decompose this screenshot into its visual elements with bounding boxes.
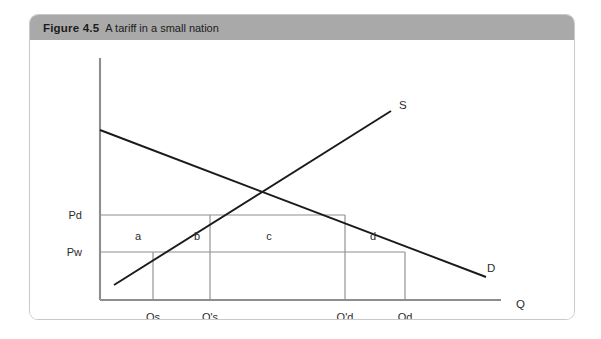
figure-number: Figure 4.5 [43,22,99,34]
welfare-region-c: c [266,230,272,242]
figure-caption: A tariff in a small nation [105,22,219,34]
supply-curve [114,111,391,285]
welfare-region-a: a [135,230,142,242]
figure-card: Figure 4.5 A tariff in a small nation S … [29,14,575,320]
price-label-pw: Pw [67,246,82,258]
demand-curve-label: D [487,262,495,274]
supply-curve-label: S [399,99,407,111]
quantity-label-qpd: Q'd [337,311,354,320]
quantity-label-qps: Q's [202,311,219,320]
quantity-label-qs: Qs [146,311,161,320]
chart-area: S D Q Pd Pw Qs Q's Q'd Qd a b c d [30,40,574,320]
welfare-region-b: b [194,230,200,242]
figure-header: Figure 4.5 A tariff in a small nation [30,15,574,40]
quantity-label-qd: Qd [398,311,413,320]
tariff-supply-demand-chart: S D Q Pd Pw Qs Q's Q'd Qd a b c d [30,40,575,320]
welfare-region-d: d [370,230,376,242]
x-axis-label: Q [516,298,525,310]
demand-curve [100,130,486,277]
price-label-pd: Pd [69,209,82,221]
